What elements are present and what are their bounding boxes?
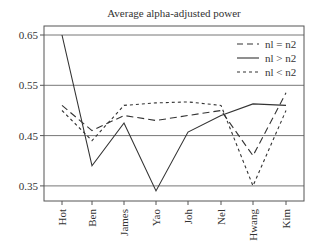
x-axis: HotBenJamesYaoJohNelHwangKim — [56, 201, 292, 241]
y-tick-label: 0.55 — [19, 79, 39, 91]
x-tick-label: Kim — [280, 209, 292, 229]
legend: nl = n2nl > n2nl < n2 — [237, 38, 296, 78]
x-tick-label: Joh — [182, 209, 194, 225]
legend-label: nl = n2 — [265, 38, 296, 50]
y-tick-label: 0.65 — [19, 29, 39, 41]
y-tick-label: 0.45 — [19, 130, 39, 142]
legend-label: nl < n2 — [265, 66, 296, 78]
x-tick-label: Ben — [86, 209, 98, 227]
x-tick-label: Yao — [150, 209, 162, 227]
x-tick-label: James — [118, 209, 130, 236]
x-tick-label: Nel — [215, 209, 227, 225]
y-axis: 0.650.550.450.35 — [19, 29, 44, 192]
x-tick-label: Hot — [56, 209, 68, 226]
line-chart: 0.650.550.450.35 HotBenJamesYaoJohNelHwa… — [0, 0, 318, 252]
legend-label: nl > n2 — [265, 52, 296, 64]
series-line-2 — [62, 102, 286, 186]
y-tick-label: 0.35 — [19, 180, 39, 192]
x-tick-label: Hwang — [247, 209, 259, 241]
